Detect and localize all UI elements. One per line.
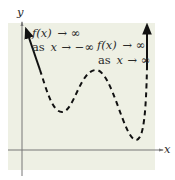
right-end-behavior-label: f(x) → ∞ as x → ∞ [96,38,150,67]
x-axis-label: x [164,142,171,156]
svg-text:as x → ∞: as x → ∞ [98,53,150,67]
svg-text:as x → −∞: as x → −∞ [32,40,94,54]
end-behavior-graph: y x f(x) → ∞ as x → −∞ f(x) → ∞ as x → ∞ [0,0,175,180]
y-axis-label: y [16,5,24,19]
